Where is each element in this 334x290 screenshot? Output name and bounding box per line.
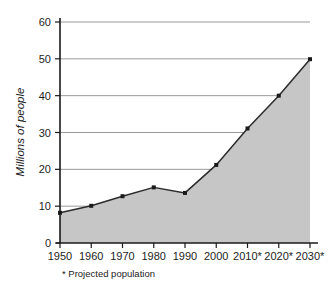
y-axis-tick-label: 40 [39, 90, 51, 102]
x-axis-tick-label: 1950 [48, 250, 72, 262]
data-point-marker: 1970: 12.7 [121, 194, 125, 198]
x-axis-tick-label: 1960 [79, 250, 103, 262]
data-point-marker: 1960: 10.1 [89, 204, 93, 208]
population-area-chart: 1950: 8.21960: 10.11970: 12.71980: 15.11… [0, 0, 334, 290]
x-axis-tick-label: 2030* [296, 250, 325, 262]
x-axis-tick-label: 1980 [142, 250, 166, 262]
x-axis-tick-label: 2010* [233, 250, 262, 262]
y-axis-ticks: 0102030405060 [39, 16, 60, 249]
x-axis-ticks: 1950196019701980199020002010*2020*2030* [48, 243, 325, 262]
chart-figure: 1950: 8.21960: 10.11970: 12.71980: 15.11… [0, 0, 334, 290]
y-axis-tick-label: 20 [39, 163, 51, 175]
chart-footnote: * Projected population [62, 268, 155, 279]
y-axis-tick-label: 50 [39, 53, 51, 65]
y-axis-tick-label: 0 [45, 237, 51, 249]
data-point-marker: 2010*: 31.1 [246, 126, 250, 130]
x-axis-tick-label: 2020* [264, 250, 293, 262]
x-axis-tick-label: 1990 [173, 250, 197, 262]
y-axis-tick-label: 10 [39, 200, 51, 212]
y-axis-tick-label: 30 [39, 127, 51, 139]
y-axis-title: Millions of people [14, 88, 26, 177]
data-point-marker: 2000: 21.2 [214, 163, 218, 167]
data-point-marker: 1990: 13.6 [183, 191, 187, 195]
y-axis-tick-label: 60 [39, 16, 51, 28]
x-axis-tick-label: 1970 [110, 250, 134, 262]
data-point-marker: 2020*: 40 [277, 94, 281, 98]
data-point-marker: 1980: 15.1 [152, 185, 156, 189]
data-point-marker: 2030*: 49.9 [308, 57, 312, 61]
x-axis-tick-label: 2000 [204, 250, 228, 262]
